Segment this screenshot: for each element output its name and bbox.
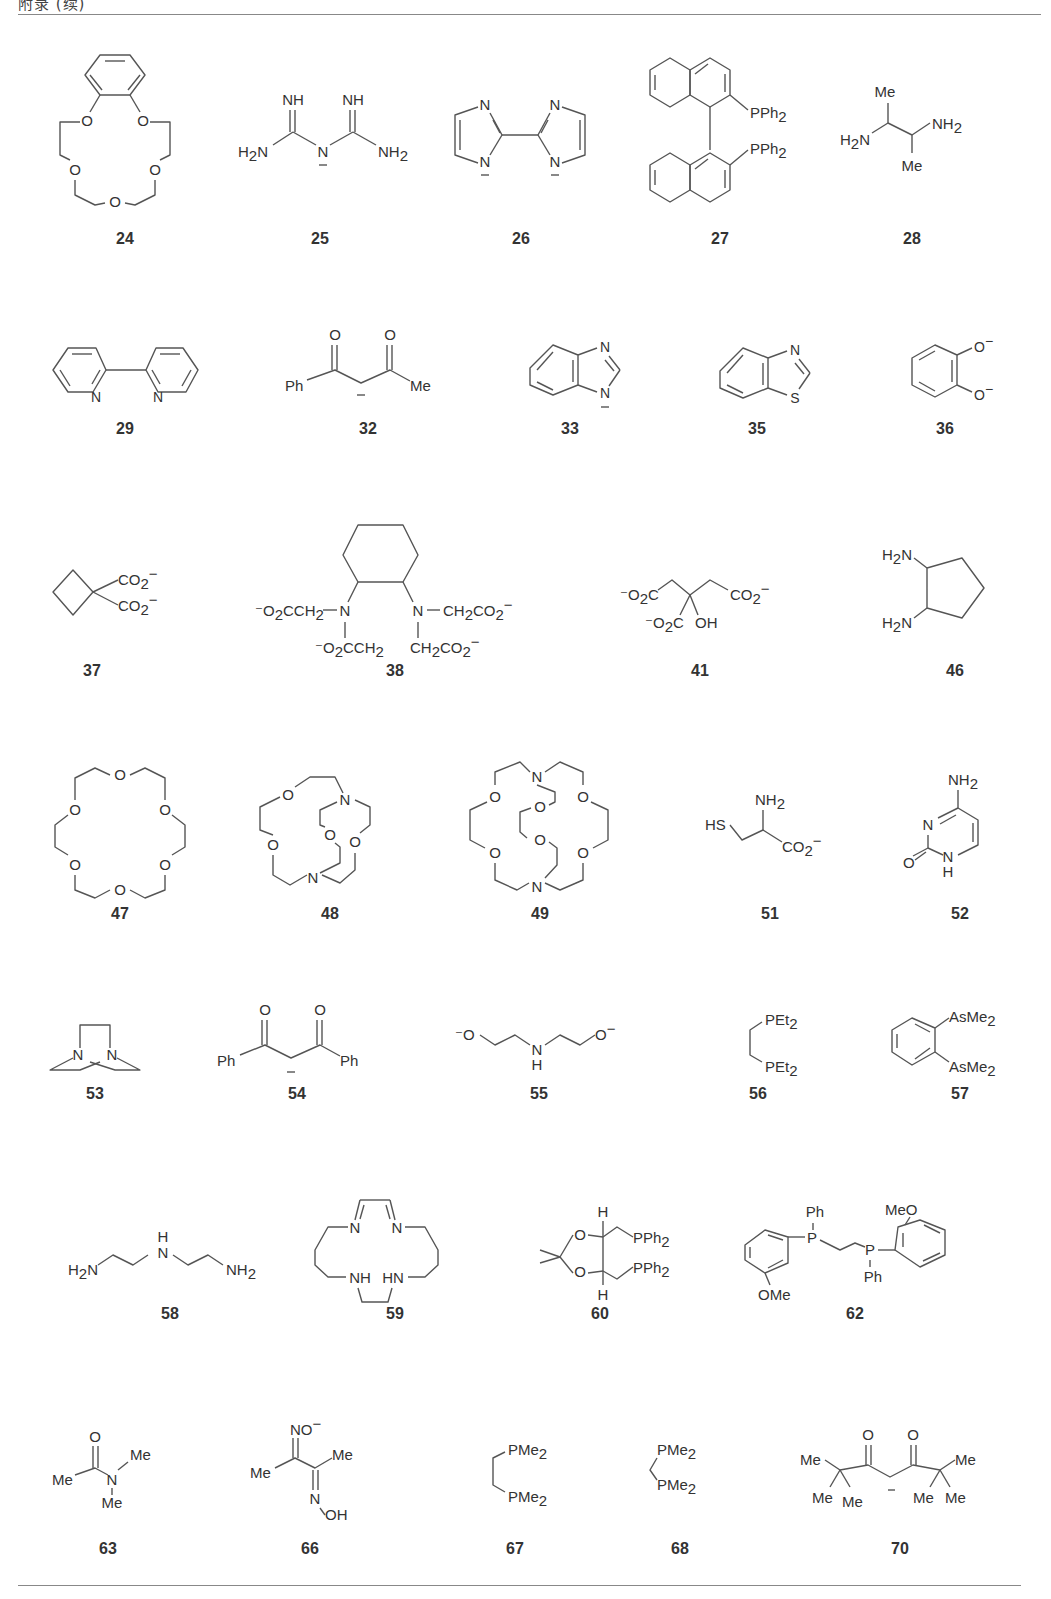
structure-26: N N NN xyxy=(440,95,610,185)
compound-number: 38 xyxy=(386,662,404,680)
compound-number: 32 xyxy=(359,420,377,438)
svg-text:N: N xyxy=(790,342,800,358)
svg-text:O: O xyxy=(282,786,294,803)
svg-text:Ph: Ph xyxy=(806,1203,824,1220)
compound-number: 37 xyxy=(83,662,101,680)
compound-number: 53 xyxy=(86,1085,104,1103)
svg-text:H: H xyxy=(598,1203,609,1220)
svg-text:O: O xyxy=(534,831,546,848)
svg-text:MeO: MeO xyxy=(885,1201,918,1218)
svg-text:O: O xyxy=(903,854,915,871)
svg-text:N: N xyxy=(73,1046,84,1063)
compound-number: 62 xyxy=(846,1305,864,1323)
svg-text:Ph: Ph xyxy=(217,1052,235,1069)
svg-text:NH2: NH2 xyxy=(378,143,408,164)
svg-text:Ph: Ph xyxy=(340,1052,358,1069)
compound-number: 48 xyxy=(321,905,339,923)
structure-56: PEt2 PEt2 xyxy=(740,1010,840,1080)
svg-text:AsMe2: AsMe2 xyxy=(949,1008,996,1029)
svg-text:H: H xyxy=(158,1228,169,1245)
svg-text:HN: HN xyxy=(382,1269,404,1286)
bottom-rule xyxy=(18,1585,1021,1586)
svg-text:O−: O− xyxy=(974,333,993,355)
svg-text:OH: OH xyxy=(325,1506,348,1523)
svg-text:Me: Me xyxy=(913,1489,934,1506)
compound-number: 57 xyxy=(951,1085,969,1103)
svg-text:NO−: NO− xyxy=(290,1415,322,1438)
svg-text:CO2−: CO2− xyxy=(118,591,158,618)
svg-text:Ph: Ph xyxy=(864,1268,882,1285)
compound-number: 26 xyxy=(512,230,530,248)
compound-number: 60 xyxy=(591,1305,609,1323)
svg-text:O: O xyxy=(259,1001,271,1018)
svg-text:O: O xyxy=(324,826,336,843)
compound-number: 55 xyxy=(530,1085,548,1103)
svg-text:N: N xyxy=(600,339,610,355)
compound-number: 52 xyxy=(951,905,969,923)
compound-number: 36 xyxy=(936,420,954,438)
compound-number: 47 xyxy=(111,905,129,923)
svg-text:N: N xyxy=(392,1219,403,1236)
structure-49: N OO OO N O O xyxy=(465,760,615,900)
structure-24: OO OO O xyxy=(40,40,200,220)
svg-text:O−: O− xyxy=(595,1020,616,1043)
compound-number: 68 xyxy=(671,1540,689,1558)
svg-text:NH2: NH2 xyxy=(948,771,978,792)
compound-number: 58 xyxy=(161,1305,179,1323)
svg-text:NH2: NH2 xyxy=(932,115,962,136)
structure-60: H OO PPh2 PPh2 H xyxy=(535,1205,685,1305)
svg-text:PPh2: PPh2 xyxy=(633,1259,670,1280)
svg-text:N: N xyxy=(923,816,934,833)
svg-text:CO2−: CO2− xyxy=(782,832,822,859)
svg-text:PMe2: PMe2 xyxy=(657,1476,696,1497)
svg-text:H: H xyxy=(532,1056,543,1073)
structure-36: O− O− xyxy=(907,340,1017,410)
compound-number: 54 xyxy=(288,1085,306,1103)
structure-33: N N xyxy=(525,340,635,410)
svg-text:Me: Me xyxy=(52,1471,73,1488)
compound-number: 33 xyxy=(561,420,579,438)
svg-text:NH: NH xyxy=(342,91,364,108)
page-header: 附录 (续) xyxy=(18,0,85,13)
svg-text:HS: HS xyxy=(705,816,726,833)
svg-text:N: N xyxy=(153,389,163,405)
svg-text:O: O xyxy=(159,801,171,818)
svg-text:AsMe2: AsMe2 xyxy=(949,1058,996,1079)
svg-text:NH: NH xyxy=(282,91,304,108)
svg-text:Ph: Ph xyxy=(285,377,303,394)
svg-text:CH2CO2−: CH2CO2− xyxy=(410,633,480,660)
svg-text:O: O xyxy=(267,836,279,853)
svg-text:PMe2: PMe2 xyxy=(508,1488,547,1509)
structure-27: PPh2 PPh2 xyxy=(640,50,820,220)
structure-59: NN NHHN xyxy=(310,1195,450,1305)
structure-35: N S xyxy=(715,343,825,413)
svg-text:⁻O2C: ⁻O2C xyxy=(645,614,684,635)
svg-text:O: O xyxy=(384,326,396,343)
svg-text:O: O xyxy=(69,856,81,873)
svg-text:H2N: H2N xyxy=(68,1261,98,1282)
svg-text:CO2−: CO2− xyxy=(118,565,158,592)
structure-53: NN xyxy=(45,1020,145,1080)
svg-text:Me: Me xyxy=(955,1451,976,1468)
compound-number: 29 xyxy=(116,420,134,438)
compound-number: 70 xyxy=(891,1540,909,1558)
compound-number: 63 xyxy=(99,1540,117,1558)
svg-text:O: O xyxy=(577,788,589,805)
svg-text:O: O xyxy=(907,1426,919,1443)
svg-text:H2N: H2N xyxy=(238,143,268,164)
structure-52: NH2 N NH O xyxy=(918,770,1028,880)
svg-text:Me: Me xyxy=(842,1493,863,1510)
svg-text:H2N: H2N xyxy=(882,546,912,567)
compound-number: 24 xyxy=(116,230,134,248)
structure-62: Ph P P Ph MeO OMe xyxy=(740,1205,980,1305)
structure-29: N N xyxy=(48,340,208,410)
svg-text:O: O xyxy=(114,766,126,783)
svg-text:N: N xyxy=(532,768,543,785)
svg-text:O−: O− xyxy=(974,381,993,403)
svg-text:O: O xyxy=(114,881,126,898)
svg-text:PPh2: PPh2 xyxy=(633,1229,670,1250)
svg-text:O: O xyxy=(534,798,546,815)
svg-text:P: P xyxy=(807,1229,817,1246)
svg-text:N: N xyxy=(480,153,491,170)
compound-number: 59 xyxy=(386,1305,404,1323)
